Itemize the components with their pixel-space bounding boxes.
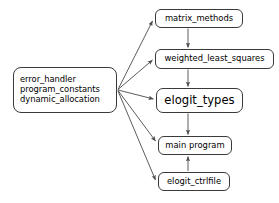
dependency-diagram: error_handler program_constants dynamic_… bbox=[0, 0, 279, 203]
node-main-program[interactable]: main program bbox=[158, 136, 232, 155]
source-line-dynamic-allocation: dynamic_allocation bbox=[20, 95, 100, 105]
edge-source-to-weighted-least-squares bbox=[118, 60, 153, 90]
node-weighted-least-squares[interactable]: weighted_least_squares bbox=[155, 49, 274, 69]
node-elogit-ctrlfile-label: elogit_ctrlfile bbox=[167, 177, 221, 187]
node-weighted-least-squares-label: weighted_least_squares bbox=[164, 54, 264, 64]
edge-source-to-elogit-ctrlfile bbox=[118, 91, 156, 180]
node-elogit-types[interactable]: elogit_types bbox=[156, 88, 243, 113]
node-matrix-methods-label: matrix_methods bbox=[165, 14, 233, 24]
edge-source-to-matrix-methods bbox=[118, 21, 153, 90]
node-main-program-label: main program bbox=[165, 141, 224, 151]
node-matrix-methods[interactable]: matrix_methods bbox=[155, 9, 243, 28]
edge-source-to-main-program bbox=[118, 91, 156, 142]
edge-source-to-elogit-types bbox=[118, 90, 154, 99]
node-elogit-types-label: elogit_types bbox=[164, 94, 234, 108]
node-source-modules-label: error_handler program_constants dynamic_… bbox=[20, 75, 100, 105]
node-elogit-ctrlfile[interactable]: elogit_ctrlfile bbox=[158, 172, 230, 191]
node-source-modules[interactable]: error_handler program_constants dynamic_… bbox=[13, 67, 117, 113]
